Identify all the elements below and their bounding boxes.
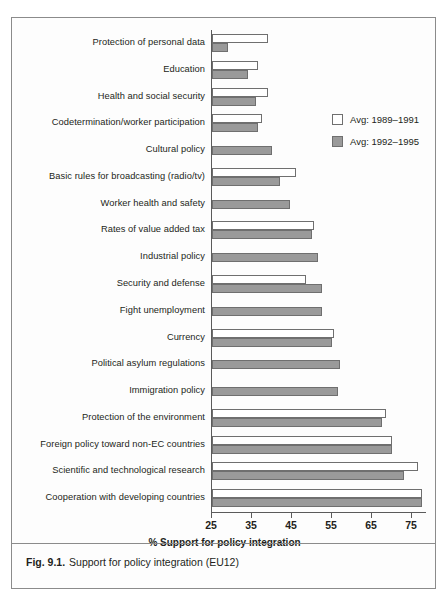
- category-label: Foreign policy toward non-EC countries: [40, 439, 205, 449]
- legend-item: Avg: 1989–1991: [332, 114, 442, 125]
- figure-caption: Fig. 9.1.Support for policy integration …: [26, 556, 239, 568]
- category-label: Industrial policy: [140, 251, 205, 261]
- category-label: Protection of the environment: [82, 412, 205, 422]
- category-label: Education: [163, 64, 205, 74]
- category-label: Rates of value added tax: [101, 224, 205, 234]
- x-axis-tick-label: 25: [196, 519, 226, 531]
- bar-avg-1989-1991: [212, 275, 306, 284]
- chart-legend: Avg: 1989–1991 Avg: 1992–1995: [332, 114, 442, 158]
- category-label: Security and defense: [117, 278, 205, 288]
- category-label: Basic rules for broadcasting (radio/tv): [49, 171, 205, 181]
- x-axis-tick-label: 55: [316, 519, 346, 531]
- x-axis-tick: [411, 513, 412, 518]
- bar-avg-1992-1995: [212, 253, 318, 262]
- bar-avg-1992-1995: [212, 146, 272, 155]
- bar-avg-1992-1995: [212, 43, 228, 52]
- bar-avg-1992-1995: [212, 307, 322, 316]
- category-label: Worker health and safety: [101, 198, 205, 208]
- bar-row: Immigration policy: [12, 378, 437, 405]
- bar-row: Protection of personal data: [12, 30, 437, 57]
- bar-row: Worker health and safety: [12, 191, 437, 218]
- bar-avg-1992-1995: [212, 123, 258, 132]
- bar-row: Currency: [12, 325, 437, 352]
- scan-top-strip: [0, 0, 447, 12]
- bar-avg-1992-1995: [212, 387, 338, 396]
- legend-item-label: Avg: 1989–1991: [350, 114, 419, 125]
- bar-avg-1992-1995: [212, 338, 332, 347]
- category-label: Protection of personal data: [93, 37, 205, 47]
- bar-row: Industrial policy: [12, 244, 437, 271]
- x-axis-tick: [251, 513, 252, 518]
- category-label: Immigration policy: [129, 385, 205, 395]
- bar-avg-1992-1995: [212, 498, 422, 507]
- bar-row: Security and defense: [12, 271, 437, 298]
- bar-avg-1992-1995: [212, 177, 280, 186]
- bar-avg-1992-1995: [212, 418, 382, 427]
- bar-avg-1992-1995: [212, 230, 312, 239]
- figure-frame: 253545556575 Protection of personal data…: [11, 17, 436, 589]
- figure-number: Fig. 9.1.: [26, 556, 65, 568]
- bar-row: Protection of the environment: [12, 405, 437, 432]
- category-label: Cultural policy: [146, 144, 205, 154]
- x-axis-tick: [211, 513, 212, 518]
- x-axis-tick: [371, 513, 372, 518]
- bar-row: Foreign policy toward non-EC countries: [12, 432, 437, 459]
- bar-avg-1989-1991: [212, 114, 262, 123]
- category-label: Political asylum regulations: [91, 358, 205, 368]
- bar-row: Political asylum regulations: [12, 351, 437, 378]
- category-label: Scientific and technological research: [52, 465, 205, 475]
- bar-avg-1992-1995: [212, 284, 322, 293]
- bar-row: Basic rules for broadcasting (radio/tv): [12, 164, 437, 191]
- bar-avg-1989-1991: [212, 88, 268, 97]
- bar-avg-1992-1995: [212, 70, 248, 79]
- category-label: Health and social security: [98, 91, 205, 101]
- x-axis-line: [211, 512, 426, 513]
- figure-page: 253545556575 Protection of personal data…: [0, 0, 447, 603]
- bar-avg-1989-1991: [212, 61, 258, 70]
- category-label: Cooperation with developing countries: [46, 492, 205, 502]
- gray-square-icon: [332, 136, 343, 147]
- legend-item: Avg: 1992–1995: [332, 136, 442, 147]
- bar-avg-1989-1991: [212, 168, 296, 177]
- x-axis-tick-label: 65: [356, 519, 386, 531]
- x-axis-tick-label: 45: [276, 519, 306, 531]
- bar-avg-1992-1995: [212, 97, 256, 106]
- bar-avg-1989-1991: [212, 436, 392, 445]
- caption-divider: [12, 543, 435, 544]
- x-axis-tick: [331, 513, 332, 518]
- bar-avg-1992-1995: [212, 360, 340, 369]
- bar-row: Fight unemployment: [12, 298, 437, 325]
- plot-area: 253545556575 Protection of personal data…: [12, 18, 435, 543]
- x-axis-tick-label: 75: [396, 519, 426, 531]
- category-label: Codetermination/worker participation: [52, 117, 205, 127]
- x-axis-tick-label: 35: [236, 519, 266, 531]
- white-square-icon: [332, 114, 343, 125]
- bar-row: Education: [12, 57, 437, 84]
- bar-avg-1989-1991: [212, 462, 418, 471]
- bar-row: Scientific and technological research: [12, 458, 437, 485]
- category-label: Fight unemployment: [120, 305, 205, 315]
- bar-avg-1989-1991: [212, 409, 386, 418]
- bar-avg-1989-1991: [212, 34, 268, 43]
- bar-rows: Protection of personal dataEducationHeal…: [12, 30, 437, 512]
- bar-avg-1992-1995: [212, 200, 290, 209]
- legend-item-label: Avg: 1992–1995: [350, 136, 419, 147]
- category-label: Currency: [167, 332, 205, 342]
- bar-avg-1989-1991: [212, 489, 422, 498]
- bar-row: Rates of value added tax: [12, 217, 437, 244]
- bar-avg-1989-1991: [212, 329, 334, 338]
- x-axis-tick: [291, 513, 292, 518]
- bar-avg-1992-1995: [212, 471, 404, 480]
- bar-row: Health and social security: [12, 84, 437, 111]
- bar-row: Cooperation with developing countries: [12, 485, 437, 512]
- caption-text: Support for policy integration (EU12): [69, 556, 239, 568]
- bar-avg-1989-1991: [212, 221, 314, 230]
- bar-avg-1992-1995: [212, 445, 392, 454]
